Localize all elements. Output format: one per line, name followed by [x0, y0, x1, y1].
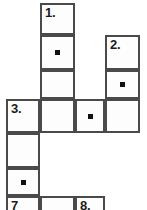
- cell-dot-marker: [21, 180, 26, 185]
- cell-r4c3[interactable]: [75, 99, 105, 133]
- cell-r3c4[interactable]: [105, 70, 140, 99]
- cell-r4c2[interactable]: [40, 99, 75, 133]
- cell-r6c1[interactable]: [6, 168, 40, 196]
- cell-dot-marker: [55, 50, 60, 55]
- cell-r4c1[interactable]: 3.: [6, 99, 40, 133]
- cell-r2c4[interactable]: 2.: [105, 35, 140, 70]
- cell-dot-marker: [88, 114, 93, 119]
- cell-r5c1[interactable]: [6, 133, 40, 168]
- cell-dot-marker: [120, 82, 125, 87]
- cell-r4c4[interactable]: [105, 99, 140, 133]
- cell-r7c1[interactable]: 7: [6, 196, 40, 210]
- cell-number-label: 8.: [80, 198, 90, 210]
- cell-r2c2[interactable]: [40, 35, 75, 70]
- cell-number-label: 3.: [11, 101, 21, 116]
- cell-r1c2[interactable]: 1.: [40, 3, 75, 35]
- crossword-grid: 1.2.3.78.: [0, 0, 147, 210]
- cell-number-label: 7: [11, 198, 18, 210]
- cell-r3c2[interactable]: [40, 70, 75, 99]
- cell-r7c2[interactable]: [40, 196, 75, 210]
- cell-r7c3[interactable]: 8.: [75, 196, 105, 210]
- cell-number-label: 1.: [45, 5, 55, 20]
- cell-number-label: 2.: [110, 37, 120, 52]
